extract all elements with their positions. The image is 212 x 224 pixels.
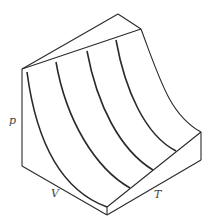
pvt-surface-diagram [0,0,212,224]
p-axis-label: p [9,114,16,127]
t-axis-label: T [154,188,161,201]
isotherm-right-edge [141,29,201,132]
isotherm-4 [116,40,176,151]
isotherm-2 [56,62,130,188]
v-axis-label: V [51,187,59,200]
top-back-edge [22,14,141,69]
isotherm-1 [27,72,107,207]
isotherm-3 [87,51,153,170]
v-axis-edge [22,166,107,215]
